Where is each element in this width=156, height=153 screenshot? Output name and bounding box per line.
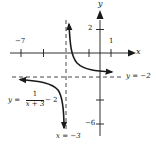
- x-axis-arrow-icon: [128, 50, 136, 57]
- tick-label-1: 1: [109, 38, 113, 45]
- tick-label-neg6: −6: [85, 120, 95, 127]
- tick-label-neg7: −7: [15, 38, 25, 45]
- tick-label-2: 2: [88, 25, 92, 32]
- horizontal-asymptote-label: y = −2: [126, 73, 151, 80]
- function-label-denominator: x + 3: [25, 101, 45, 108]
- function-label-suffix: − 2: [45, 97, 58, 104]
- function-label-numerator: 1: [26, 91, 44, 98]
- y-axis-arrow-icon: [97, 10, 104, 19]
- vertical-asymptote-label: x = −3: [56, 133, 81, 140]
- y-axis: [96, 10, 104, 136]
- y-axis-label: y: [98, 0, 103, 8]
- function-label-prefix: y =: [8, 97, 20, 104]
- x-axis-label: x: [136, 48, 141, 56]
